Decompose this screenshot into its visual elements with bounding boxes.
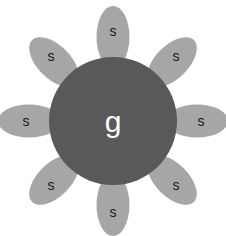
satellite-e-label: s: [198, 113, 205, 129]
radial-satellite-diagram: g ssssssss: [0, 0, 226, 236]
satellite-sw-label: s: [48, 177, 55, 193]
satellite-nw-label: s: [48, 48, 55, 64]
satellite-w-label: s: [23, 113, 30, 129]
glycogenin-core-label: g: [105, 105, 122, 138]
satellite-n-label: s: [110, 23, 117, 39]
satellite-s-label: s: [110, 204, 117, 220]
diagram-canvas: g ssssssss: [0, 0, 226, 236]
satellite-ne-label: s: [173, 48, 180, 64]
satellite-se-label: s: [173, 177, 180, 193]
